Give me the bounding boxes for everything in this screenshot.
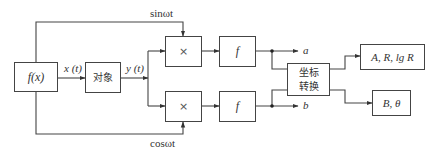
filter-top-label: f	[236, 44, 239, 59]
cos-reference-label: cosωt	[150, 138, 175, 149]
plant-label: 对象	[93, 71, 113, 85]
coord-transform-line2: 转换	[299, 80, 319, 94]
junction-dot-top	[270, 49, 274, 53]
output-a-label: a	[303, 45, 309, 56]
filter-bottom-label: f	[236, 99, 239, 114]
source-label: f(x)	[28, 70, 45, 85]
connection-lines	[0, 0, 434, 153]
output-b-label: b	[303, 100, 309, 111]
multiplier-bottom-block: ×	[165, 91, 202, 122]
plant-block: 对象	[85, 62, 121, 93]
source-block: f(x)	[14, 62, 58, 92]
multiplier-top-block: ×	[165, 36, 202, 67]
junction-dot-bottom	[270, 104, 274, 108]
sin-reference-label: sinωt	[150, 8, 173, 19]
output-top-block: A, R, lg R	[360, 44, 425, 70]
signal-x-label: x (t)	[64, 63, 82, 74]
filter-bottom-block: f	[219, 91, 256, 122]
multiply-icon: ×	[179, 100, 188, 113]
signal-y-label: y (t)	[126, 63, 144, 74]
output-top-label: A, R, lg R	[371, 51, 413, 63]
output-bottom-label: B, θ	[383, 97, 401, 109]
output-bottom-block: B, θ	[372, 90, 411, 116]
filter-top-block: f	[219, 36, 256, 67]
coord-transform-block: 坐标 转换	[287, 63, 330, 96]
multiply-icon: ×	[179, 45, 188, 58]
coord-transform-line1: 坐标	[299, 66, 319, 80]
